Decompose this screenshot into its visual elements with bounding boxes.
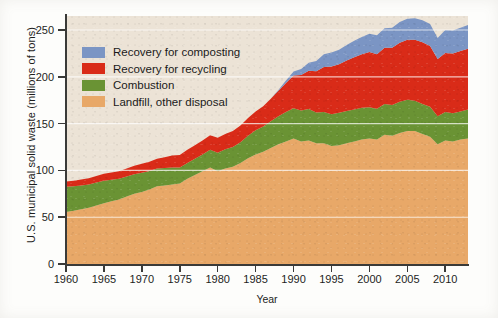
y-tick-label: 100 [18, 164, 54, 176]
legend-label: Landfill, other disposal [113, 96, 227, 108]
legend-swatch [82, 96, 105, 107]
chart-legend: Recovery for compostingRecovery for recy… [82, 44, 240, 110]
x-tick-label: 2010 [422, 273, 468, 285]
y-tick-label: 0 [18, 258, 54, 270]
y-tick-label: 50 [18, 211, 54, 223]
legend-item: Recovery for composting [82, 44, 240, 61]
area-band-landfill-other-disposal [66, 131, 468, 264]
x-tick [444, 265, 446, 272]
y-axis-spine [65, 14, 67, 266]
chart-figure: U.S. municipal solid waste (millions of … [0, 0, 498, 318]
x-tick [179, 265, 181, 272]
legend-item: Combustion [82, 77, 240, 94]
legend-swatch [82, 63, 105, 74]
x-tick [103, 265, 105, 272]
legend-item: Recovery for recycling [82, 61, 240, 78]
x-tick [331, 265, 333, 272]
legend-swatch [82, 80, 105, 91]
x-tick [141, 265, 143, 272]
legend-label: Recovery for recycling [113, 63, 227, 75]
x-tick [217, 265, 219, 272]
legend-swatch [82, 47, 105, 58]
x-tick [407, 265, 409, 272]
y-tick-label: 250 [18, 24, 54, 36]
y-axis-tick-labels: 050100150200250 [14, 0, 54, 318]
legend-label: Recovery for composting [113, 46, 240, 58]
y-tick-label: 150 [18, 118, 54, 130]
legend-label: Combustion [113, 79, 174, 91]
legend-item: Landfill, other disposal [82, 94, 240, 111]
x-axis-spine [65, 264, 469, 266]
x-tick [369, 265, 371, 272]
x-tick [255, 265, 257, 272]
x-axis-title: Year [66, 293, 468, 305]
x-tick [293, 265, 295, 272]
x-tick [65, 265, 67, 272]
y-tick-label: 200 [18, 71, 54, 83]
